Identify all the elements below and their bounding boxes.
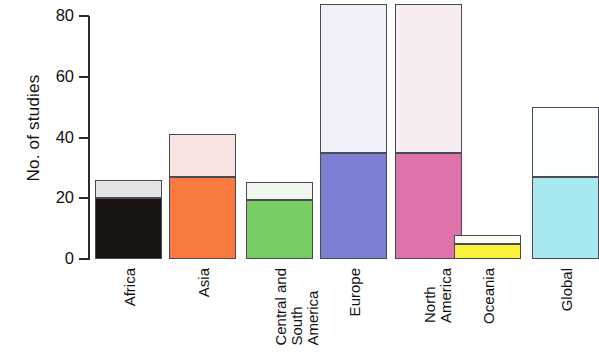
y-tick-label: 80	[30, 7, 74, 24]
bar-oceania	[454, 235, 521, 259]
bar-segment-lower	[246, 200, 313, 259]
bar-segment-upper	[395, 4, 462, 153]
x-axis-label: Central and South America	[273, 268, 321, 346]
bar-europe	[320, 4, 387, 259]
bar-segment-lower	[532, 177, 599, 259]
bar-africa	[95, 180, 162, 259]
x-axis-label-text: Oceania	[481, 268, 497, 324]
x-axis-label-text: Africa	[122, 268, 138, 306]
bar-segment-upper	[169, 134, 236, 177]
bar-central-and-south-america	[246, 182, 313, 259]
x-axis-label: North America	[422, 268, 454, 323]
bar-segment-upper	[532, 107, 599, 177]
x-axis-label-text: Global	[559, 268, 575, 311]
x-axis-label: Europe	[347, 268, 363, 316]
bar-segment-upper	[320, 4, 387, 153]
bar-segment-lower	[95, 198, 162, 259]
y-tick-label: 60	[30, 68, 74, 85]
x-axis-label-text: Asia	[196, 268, 212, 297]
x-axis-label: Africa	[122, 268, 138, 306]
bar-segment-upper	[454, 235, 521, 244]
x-axis-label: Oceania	[481, 268, 497, 324]
bar-north-america	[395, 4, 462, 259]
bar-segment-lower	[395, 153, 462, 259]
x-axis-label-text: North America	[422, 268, 454, 323]
bar-segment-lower	[454, 244, 521, 259]
x-axis-label-text: Central and South America	[273, 268, 321, 346]
y-tick-label: 20	[30, 189, 74, 206]
bar-segment-upper	[95, 180, 162, 198]
bar-segment-upper	[246, 182, 313, 200]
bar-asia	[169, 134, 236, 259]
y-tick-label: 40	[30, 129, 74, 146]
plot-area	[88, 0, 589, 261]
x-axis-label: Global	[559, 268, 575, 311]
bar-segment-lower	[169, 177, 236, 259]
bar-segment-lower	[320, 153, 387, 259]
x-axis-label: Asia	[196, 268, 212, 297]
x-axis-label-text: Europe	[347, 268, 363, 316]
bar-global	[532, 107, 599, 259]
y-tick-label: 0	[30, 250, 74, 267]
